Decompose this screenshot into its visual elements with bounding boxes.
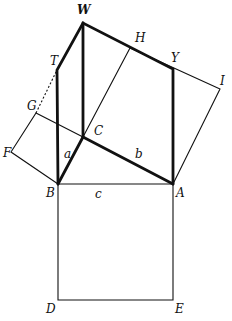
label-i: I bbox=[219, 74, 225, 88]
side-label-a: a bbox=[64, 147, 71, 161]
label-a-point: A bbox=[175, 186, 185, 200]
label-h: H bbox=[134, 31, 146, 45]
square-a bbox=[11, 113, 83, 184]
label-b-point: B bbox=[45, 186, 55, 200]
label-f: F bbox=[2, 146, 12, 160]
label-w: W bbox=[77, 3, 92, 17]
dashed-line-gt bbox=[36, 70, 57, 113]
side-label-b: b bbox=[135, 147, 143, 161]
label-c: C bbox=[94, 124, 103, 138]
label-d: D bbox=[45, 302, 56, 316]
label-y: Y bbox=[171, 51, 180, 65]
label-g: G bbox=[27, 99, 37, 113]
side-b bbox=[83, 137, 173, 184]
thick-outline bbox=[57, 23, 173, 184]
side-label-c: c bbox=[95, 187, 102, 201]
label-t: T bbox=[50, 54, 59, 68]
square-c bbox=[58, 184, 173, 300]
square-b bbox=[83, 48, 220, 184]
pythagorean-diagram: W T G F C B A H Y I D E a b c bbox=[0, 0, 232, 321]
label-e: E bbox=[174, 302, 184, 316]
